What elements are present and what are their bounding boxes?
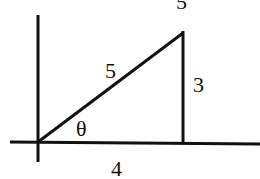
x-axis [10,142,260,144]
opposite-label: 3 [193,72,204,97]
triangle-diagram: 5 5 3 θ 4 [0,0,260,179]
adjacent-label: 4 [111,156,122,179]
top-label: 5 [176,0,187,14]
hypotenuse-label: 5 [105,58,116,83]
hypotenuse-side [38,33,183,142]
angle-label: θ [76,116,87,141]
